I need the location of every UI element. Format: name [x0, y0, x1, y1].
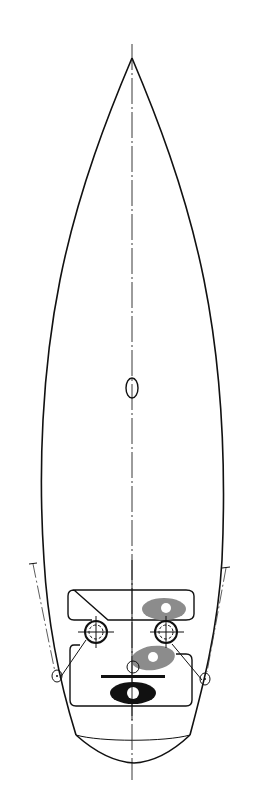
sailboat-deck-plan: [0, 0, 261, 811]
traveler-bar: [101, 675, 165, 678]
helm-seat-gray-upper: [142, 598, 186, 620]
starboard-sheet: [172, 644, 202, 680]
starboard-winch-icon: [150, 616, 184, 648]
stern-transom-upper: [76, 735, 190, 740]
port-shroud-track: [29, 563, 55, 672]
helm-position-black: [110, 682, 156, 704]
starboard-shroud-track: [207, 567, 230, 672]
stern-transom-lower: [76, 735, 190, 763]
helm-seat-gray-lower: [130, 643, 177, 673]
